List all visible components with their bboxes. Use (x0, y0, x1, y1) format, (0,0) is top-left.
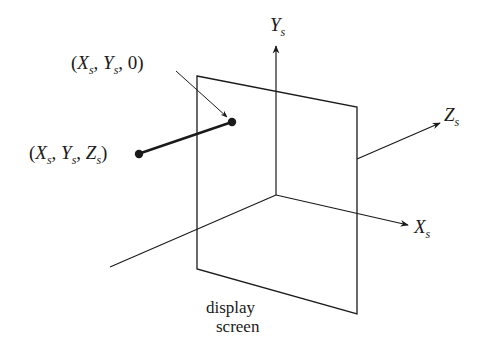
x-symbol: X (77, 52, 89, 73)
y-axis-symbol: Y (270, 14, 281, 35)
display-screen-caption: display screen (206, 298, 259, 336)
paren-close: ) (101, 142, 107, 163)
x-axis-label: Xs (414, 216, 430, 242)
separator: , (118, 52, 128, 73)
z-axis-label: Zs (444, 104, 459, 130)
caption-line-screen: screen (206, 317, 259, 336)
x-axis-arrow (276, 195, 408, 225)
z-axis-arrow (357, 123, 440, 159)
projected-point-dot (228, 118, 236, 126)
y-symbol: Y (61, 142, 72, 163)
separator: , (94, 52, 104, 73)
z-axis-symbol: Z (444, 104, 455, 125)
projected-point-label: (Xs, Ys, 0) (71, 52, 144, 78)
paren-close: ) (137, 52, 143, 73)
projection-line (138, 122, 232, 154)
y-symbol: Y (103, 52, 114, 73)
y-axis-subscript: s (281, 25, 286, 39)
separator: , (76, 142, 86, 163)
x-symbol: X (35, 142, 47, 163)
z-value: 0 (128, 52, 138, 73)
world-point-label: (Xs, Ys, Zs) (29, 142, 107, 168)
separator: , (52, 142, 62, 163)
pointer-arrow (176, 71, 227, 117)
z-symbol: Z (86, 142, 97, 163)
x-axis-symbol: X (414, 216, 426, 237)
x-axis-subscript: s (426, 227, 431, 241)
world-point-dot (135, 150, 143, 158)
z-axis-subscript: s (455, 115, 460, 129)
caption-line-display: display (206, 298, 259, 317)
negative-z-axis-line (110, 195, 276, 267)
y-axis-label: Ys (270, 14, 285, 40)
